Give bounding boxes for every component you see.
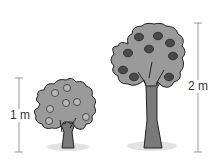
small-tree-height-label: 1 m — [9, 109, 31, 122]
big-tree — [111, 23, 185, 151]
big-tree-height-label: 2 m — [187, 80, 209, 93]
small-tree — [34, 78, 95, 151]
